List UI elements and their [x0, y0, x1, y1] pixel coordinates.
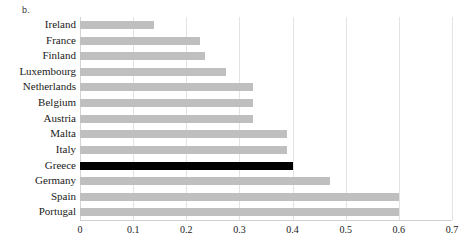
category-label: Greece	[0, 158, 76, 174]
category-label: Portugal	[0, 204, 76, 220]
bar-row: Portugal	[0, 204, 468, 220]
x-tick-label: 0	[60, 224, 100, 235]
x-tick-label: 0.3	[219, 224, 259, 235]
bar-row: Germany	[0, 173, 468, 189]
bar	[80, 115, 253, 123]
bar-row: Greece	[0, 158, 468, 174]
x-tick-label: 0.5	[326, 224, 366, 235]
category-label: Malta	[0, 126, 76, 142]
category-label: Luxembourg	[0, 64, 76, 80]
bar	[80, 146, 287, 154]
category-label: Finland	[0, 48, 76, 64]
x-tick-label: 0.4	[273, 224, 313, 235]
bar	[80, 68, 226, 76]
category-label: Belgium	[0, 95, 76, 111]
bar	[80, 130, 287, 138]
bar	[80, 52, 205, 60]
x-tick-label: 0.1	[113, 224, 153, 235]
bar-row: Finland	[0, 48, 468, 64]
category-label: Germany	[0, 173, 76, 189]
category-label: Spain	[0, 189, 76, 205]
x-tick-label: 0.6	[379, 224, 419, 235]
x-tick-label: 0.7	[432, 224, 468, 235]
bar	[80, 162, 293, 170]
bar-row: Belgium	[0, 95, 468, 111]
bar	[80, 193, 399, 201]
bar-row: France	[0, 33, 468, 49]
bar-chart-figure: b. IrelandFranceFinlandLuxembourgNetherl…	[0, 0, 468, 250]
bar-row: Malta	[0, 126, 468, 142]
bar	[80, 208, 399, 216]
category-label: Austria	[0, 111, 76, 127]
category-label: Netherlands	[0, 79, 76, 95]
category-label: France	[0, 33, 76, 49]
bar	[80, 83, 253, 91]
bar	[80, 177, 330, 185]
x-axis-line	[80, 220, 452, 221]
bar-row: Spain	[0, 189, 468, 205]
bar	[80, 37, 200, 45]
bar	[80, 21, 154, 29]
bar-row: Netherlands	[0, 79, 468, 95]
panel-label: b.	[22, 5, 30, 15]
x-axis-tick-labels: 00.10.20.30.40.50.60.7	[0, 224, 468, 240]
bar-row: Ireland	[0, 17, 468, 33]
bar-row: Luxembourg	[0, 64, 468, 80]
bar-rows: IrelandFranceFinlandLuxembourgNetherland…	[0, 17, 468, 220]
category-label: Ireland	[0, 17, 76, 33]
bar-row: Austria	[0, 111, 468, 127]
category-label: Italy	[0, 142, 76, 158]
bar-row: Italy	[0, 142, 468, 158]
x-tick-label: 0.2	[166, 224, 206, 235]
bar	[80, 99, 253, 107]
